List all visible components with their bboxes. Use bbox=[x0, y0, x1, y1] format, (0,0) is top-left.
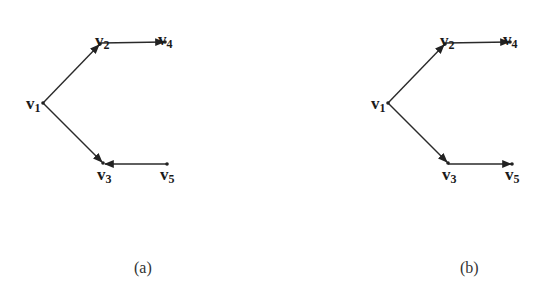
edge-a-v1-v2 bbox=[43, 45, 99, 103]
vertex-a-v1 bbox=[41, 101, 45, 105]
caption-a: (a) bbox=[134, 259, 152, 277]
label-a-v1: v1 bbox=[26, 94, 41, 115]
panel-b: v1 v2 v4 v3 v5 (b) bbox=[371, 30, 520, 277]
edge-a-v2-v4 bbox=[101, 42, 164, 43]
label-b-v2: v2 bbox=[440, 31, 455, 52]
label-b-v3: v3 bbox=[442, 165, 457, 186]
label-a-v2: v2 bbox=[95, 31, 110, 52]
figure-canvas: v1 v2 v4 v3 v5 (a) v1 v2 v4 v3 v5 (b) bbox=[0, 0, 549, 297]
label-b-v5: v5 bbox=[505, 165, 520, 186]
label-a-v4: v4 bbox=[158, 30, 173, 51]
edge-b-v1-v2 bbox=[388, 45, 444, 103]
label-b-v4: v4 bbox=[503, 30, 518, 51]
caption-b: (b) bbox=[460, 259, 479, 277]
label-a-v3: v3 bbox=[97, 165, 112, 186]
edge-b-v2-v4 bbox=[446, 42, 509, 43]
edge-a-v1-v3 bbox=[43, 103, 102, 162]
label-b-v1: v1 bbox=[371, 94, 386, 115]
vertex-b-v1 bbox=[386, 101, 390, 105]
edge-b-v1-v3 bbox=[388, 103, 447, 162]
label-a-v5: v5 bbox=[160, 165, 175, 186]
panel-a: v1 v2 v4 v3 v5 (a) bbox=[26, 30, 175, 277]
